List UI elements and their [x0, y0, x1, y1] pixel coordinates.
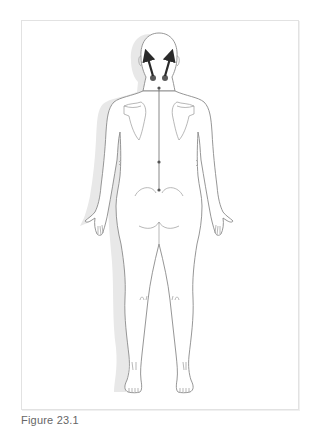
- figure-caption: Figure 23.1: [21, 414, 79, 426]
- spine-marker-upper: [157, 86, 160, 89]
- head-outline: [141, 33, 177, 91]
- spine-marker-middle: [157, 160, 160, 163]
- spine-marker-lower: [157, 188, 160, 191]
